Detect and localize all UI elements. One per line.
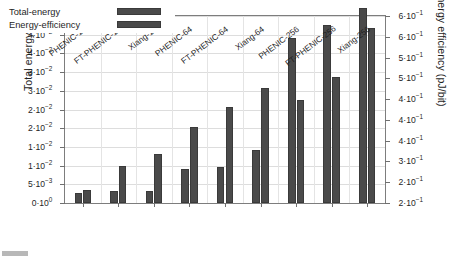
bar-total-energy xyxy=(181,169,189,203)
x-tick xyxy=(332,203,333,207)
bar-total-energy xyxy=(146,191,154,203)
x-tick xyxy=(118,203,119,207)
bar-energy-efficiency xyxy=(119,166,127,203)
bar-energy-efficiency xyxy=(83,190,91,203)
x-tick xyxy=(261,203,262,207)
y-tick-right xyxy=(385,182,390,183)
legend-item-total-energy: Total-energy xyxy=(9,5,175,18)
y-tick-label-right: 5·10−1 xyxy=(395,73,424,83)
y-tick-right xyxy=(385,161,390,162)
bar-energy-efficiency xyxy=(226,107,234,203)
y-tick-label-right: 5·10−1 xyxy=(395,53,424,63)
x-tick xyxy=(83,203,84,207)
bar-energy-efficiency xyxy=(190,127,198,203)
y-tick-left xyxy=(60,203,65,204)
y-tick-label-left: 1·10−2 xyxy=(28,161,56,171)
y-tick-label-right: 2·10−1 xyxy=(395,177,424,187)
x-tick xyxy=(367,203,368,207)
x-tick xyxy=(154,203,155,207)
y-tick-label-right: 6·10−1 xyxy=(395,32,424,42)
y-tick-label-right: 4·10−1 xyxy=(395,136,424,146)
y-tick-right xyxy=(385,141,390,142)
y-tick-right xyxy=(385,99,390,100)
x-tick xyxy=(189,203,190,207)
y-tick-label-left: 3·10−2 xyxy=(28,67,56,77)
bar-total-energy xyxy=(252,150,260,203)
legend-label-total-energy: Total-energy xyxy=(9,7,117,17)
y-tick-label-left: 3·10−2 xyxy=(28,86,56,96)
y-tick-label-right: 6·10−1 xyxy=(395,11,424,21)
y-tick-label-right: 4·10−1 xyxy=(395,115,424,125)
chart-legend: Total-energy Energy-efficiency xyxy=(5,3,175,33)
y-tick-label-left: 2·10−2 xyxy=(28,105,56,115)
bar-energy-efficiency xyxy=(368,28,376,203)
bar-total-energy xyxy=(217,167,225,203)
y-tick-right xyxy=(385,78,390,79)
footer-mark xyxy=(2,251,28,256)
bar-total-energy xyxy=(110,191,118,203)
y-axis-right-title: Energy efficiency (pJ/bit) xyxy=(436,0,448,128)
y-tick-right xyxy=(385,58,390,59)
y-tick-label-left: 5·10−3 xyxy=(28,179,56,189)
y-tick-label-right: 3·10−1 xyxy=(395,156,424,166)
y-tick-right xyxy=(385,37,390,38)
plot-area: 0·1005·10−31·10−21·10−22·10−22·10−23·10−… xyxy=(64,15,386,204)
legend-item-energy-efficiency: Energy-efficiency xyxy=(9,18,175,31)
y-tick-label-left: 2·10−2 xyxy=(28,123,56,133)
y-tick-label-left: 0·100 xyxy=(32,198,56,208)
x-tick xyxy=(225,203,226,207)
bar-energy-efficiency xyxy=(332,77,340,203)
y-tick-label-right: 4·10−1 xyxy=(395,94,424,104)
legend-label-energy-efficiency: Energy-efficiency xyxy=(9,20,117,30)
chart-figure: Total energy (J) Energy efficiency (pJ/b… xyxy=(0,0,450,260)
bar-energy-efficiency xyxy=(297,100,305,203)
legend-swatch-energy-efficiency xyxy=(117,21,161,28)
y-tick-label-left: 1·10−2 xyxy=(28,142,56,152)
x-tick xyxy=(296,203,297,207)
bar-series-group xyxy=(65,16,385,203)
y-tick-right xyxy=(385,16,390,17)
y-tick-right xyxy=(385,203,390,204)
y-tick-right xyxy=(385,120,390,121)
bar-energy-efficiency xyxy=(154,154,162,203)
y-tick-label-right: 2·10−1 xyxy=(395,198,424,208)
bar-total-energy xyxy=(75,193,83,203)
legend-swatch-total-energy xyxy=(117,8,161,15)
bar-energy-efficiency xyxy=(261,88,269,203)
